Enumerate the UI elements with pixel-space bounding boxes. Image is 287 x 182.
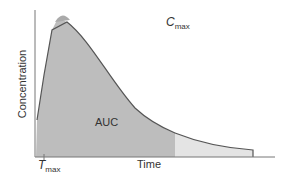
cmax-label: Cmax bbox=[166, 15, 190, 31]
y-axis-label: Concentration bbox=[16, 44, 28, 124]
auc-area bbox=[36, 18, 175, 157]
auc-label: AUC bbox=[95, 116, 118, 128]
x-axis-label: Time bbox=[137, 158, 161, 170]
concentration-time-plot bbox=[0, 0, 287, 182]
tmax-label: Tmax bbox=[38, 158, 60, 174]
